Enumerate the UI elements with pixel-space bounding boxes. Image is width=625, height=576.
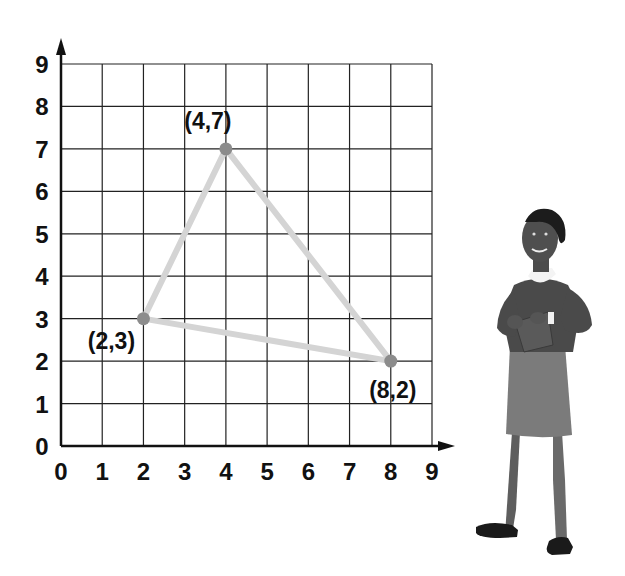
x-tick-label: 2 xyxy=(137,458,150,485)
y-tick-label: 0 xyxy=(35,433,48,460)
vertex-point xyxy=(219,142,232,155)
woman-illustration xyxy=(476,209,592,555)
x-tick-label: 0 xyxy=(54,458,67,485)
left-hand xyxy=(507,315,523,329)
y-tick-label: 4 xyxy=(35,263,49,290)
x-tick-label: 4 xyxy=(219,458,233,485)
y-tick-label: 1 xyxy=(35,391,48,418)
y-tick-label: 2 xyxy=(35,348,48,375)
cuff xyxy=(548,312,554,324)
y-tick-label: 3 xyxy=(35,306,48,333)
eye xyxy=(532,232,535,235)
skirt xyxy=(506,345,572,437)
x-tick-label: 3 xyxy=(178,458,191,485)
x-tick-label: 9 xyxy=(425,458,438,485)
vertex-point xyxy=(137,312,150,325)
y-axis-arrow-icon xyxy=(56,38,66,55)
y-tick-label: 5 xyxy=(35,221,48,248)
x-axis-arrow-icon xyxy=(438,441,455,451)
y-tick-label: 6 xyxy=(35,178,48,205)
coordinate-diagram: 0123456789 0123456789 (4,7)(2,3)(8,2) xyxy=(0,0,625,576)
x-tick-label: 1 xyxy=(96,458,109,485)
right-leg xyxy=(553,432,567,540)
x-tick-label: 7 xyxy=(343,458,356,485)
y-tick-label: 7 xyxy=(35,136,48,163)
left-shoe xyxy=(476,523,518,538)
right-hand xyxy=(530,312,546,324)
right-shoe xyxy=(547,537,573,555)
x-axis-tick-labels: 0123456789 xyxy=(54,458,438,485)
x-tick-label: 5 xyxy=(260,458,273,485)
y-tick-label: 8 xyxy=(35,93,48,120)
y-tick-label: 9 xyxy=(35,51,48,78)
point-label: (4,7) xyxy=(184,108,231,134)
left-leg xyxy=(505,432,520,535)
x-tick-label: 6 xyxy=(302,458,315,485)
eye xyxy=(544,232,547,235)
vertex-point xyxy=(384,355,397,368)
x-tick-label: 8 xyxy=(384,458,397,485)
point-label: (8,2) xyxy=(369,377,416,403)
point-label: (2,3) xyxy=(88,328,135,354)
y-axis-tick-labels: 0123456789 xyxy=(35,51,49,460)
